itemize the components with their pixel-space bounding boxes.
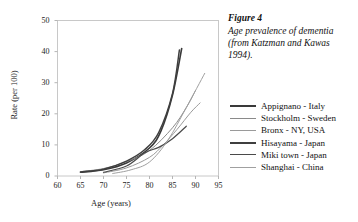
- y-tick-label: 10: [28, 140, 50, 149]
- y-tick-label: 30: [28, 78, 50, 87]
- figure-caption: Figure 4 Age prevalence of dementia (fro…: [228, 12, 356, 62]
- legend-item[interactable]: Appignano - Italy: [230, 100, 358, 112]
- legend-line-swatch-icon: [230, 154, 256, 155]
- legend-line-swatch-icon: [230, 142, 256, 144]
- caption-legend-panel: Figure 4 Age prevalence of dementia (fro…: [228, 0, 358, 222]
- legend-line-swatch-icon: [230, 167, 256, 168]
- legend-item-label: Shanghai - China: [261, 161, 324, 173]
- x-tick-label: 70: [93, 181, 115, 190]
- x-axis-title: Age (years): [0, 198, 222, 208]
- x-tick-label: 80: [139, 181, 161, 190]
- legend-line-swatch-icon: [230, 118, 256, 119]
- y-tick-label: 20: [28, 109, 50, 118]
- x-tick-label: 60: [47, 181, 69, 190]
- legend-item[interactable]: Stockholm - Sweden: [230, 112, 358, 124]
- legend-item-label: Appignano - Italy: [261, 100, 325, 112]
- legend-item-label: Hisayama - Japan: [261, 137, 325, 149]
- legend-line-swatch-icon: [230, 105, 256, 107]
- legend-item[interactable]: Miki town - Japan: [230, 149, 358, 161]
- y-tick-label: 40: [28, 47, 50, 56]
- legend-item-label: Miki town - Japan: [261, 149, 327, 161]
- x-tick-label: 90: [185, 181, 207, 190]
- legend-item-label: Stockholm - Sweden: [261, 112, 336, 124]
- x-tick-label: 95: [208, 181, 230, 190]
- figure-caption-title: Figure 4: [228, 12, 356, 24]
- x-tick-label: 85: [162, 181, 184, 190]
- plot-frame: [58, 21, 219, 177]
- y-axis-title: Rate (per 100): [9, 45, 19, 145]
- x-tick-label: 65: [70, 181, 92, 190]
- figure-caption-body: Age prevalence of dementia (from Katzman…: [228, 25, 356, 62]
- chart-panel: 01020304050 6065707580859095 Rate (per 1…: [0, 0, 222, 222]
- chart-legend: Appignano - ItalyStockholm - SwedenBronx…: [230, 100, 358, 173]
- legend-item[interactable]: Bronx - NY, USA: [230, 124, 358, 136]
- legend-item[interactable]: Shanghai - China: [230, 161, 358, 173]
- legend-line-swatch-icon: [230, 130, 256, 131]
- y-tick-label: 0: [28, 171, 50, 180]
- y-tick-label: 50: [28, 16, 50, 25]
- x-tick-label: 75: [116, 181, 138, 190]
- legend-item-label: Bronx - NY, USA: [261, 124, 325, 136]
- legend-item[interactable]: Hisayama - Japan: [230, 137, 358, 149]
